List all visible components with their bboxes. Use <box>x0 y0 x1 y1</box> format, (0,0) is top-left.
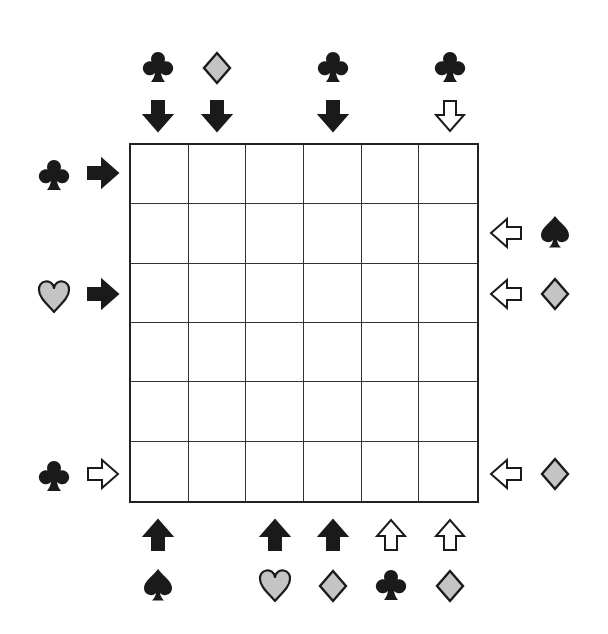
grid-cell-r3-c4[interactable] <box>304 264 362 323</box>
grid-cell-r5-c6[interactable] <box>419 382 477 441</box>
diamond-icon <box>535 454 575 494</box>
arrow-right-icon <box>83 274 123 314</box>
heart-icon <box>34 277 74 317</box>
grid-cell-r6-c6[interactable] <box>419 442 477 501</box>
puzzle-grid <box>129 143 479 503</box>
grid-cell-r2-c2[interactable] <box>189 204 247 263</box>
arrow-down-icon <box>430 96 470 136</box>
grid-cell-r5-c4[interactable] <box>304 382 362 441</box>
arrow-right-icon <box>83 153 123 193</box>
grid-cell-r3-c2[interactable] <box>189 264 247 323</box>
grid-cell-r6-c4[interactable] <box>304 442 362 501</box>
arrow-up-icon <box>313 515 353 555</box>
grid-cell-r6-c3[interactable] <box>246 442 304 501</box>
diamond-icon <box>197 48 237 88</box>
grid-cell-r5-c3[interactable] <box>246 382 304 441</box>
arrow-down-icon <box>197 96 237 136</box>
arrow-down-icon <box>138 96 178 136</box>
grid-cell-r4-c2[interactable] <box>189 323 247 382</box>
club-icon <box>313 48 353 88</box>
grid-cell-r1-c5[interactable] <box>362 145 420 204</box>
grid-cell-r4-c3[interactable] <box>246 323 304 382</box>
grid-cell-r3-c6[interactable] <box>419 264 477 323</box>
grid-cell-r2-c5[interactable] <box>362 204 420 263</box>
grid-cell-r1-c3[interactable] <box>246 145 304 204</box>
heart-icon <box>255 566 295 606</box>
grid-cell-r6-c2[interactable] <box>189 442 247 501</box>
spade-icon <box>138 566 178 606</box>
arrow-left-icon <box>486 454 526 494</box>
grid-cell-r6-c5[interactable] <box>362 442 420 501</box>
grid-cell-r1-c1[interactable] <box>131 145 189 204</box>
club-icon <box>371 566 411 606</box>
diamond-icon <box>313 566 353 606</box>
diamond-icon <box>430 566 470 606</box>
grid-cell-r3-c1[interactable] <box>131 264 189 323</box>
grid-cell-r5-c5[interactable] <box>362 382 420 441</box>
grid-cell-r4-c6[interactable] <box>419 323 477 382</box>
grid-cell-r1-c2[interactable] <box>189 145 247 204</box>
grid-cell-r5-c1[interactable] <box>131 382 189 441</box>
arrow-left-icon <box>486 213 526 253</box>
arrow-up-icon <box>138 515 178 555</box>
arrow-down-icon <box>313 96 353 136</box>
arrow-right-icon <box>83 454 123 494</box>
grid-cell-r6-c1[interactable] <box>131 442 189 501</box>
spade-icon <box>535 213 575 253</box>
arrow-left-icon <box>486 274 526 314</box>
club-icon <box>138 48 178 88</box>
arrow-up-icon <box>371 515 411 555</box>
arrow-up-icon <box>430 515 470 555</box>
grid-cell-r2-c4[interactable] <box>304 204 362 263</box>
club-icon <box>34 156 74 196</box>
club-icon <box>34 457 74 497</box>
grid-cell-r2-c1[interactable] <box>131 204 189 263</box>
grid-cell-r2-c6[interactable] <box>419 204 477 263</box>
diamond-icon <box>535 274 575 314</box>
club-icon <box>430 48 470 88</box>
grid-cell-r1-c4[interactable] <box>304 145 362 204</box>
grid-cell-r1-c6[interactable] <box>419 145 477 204</box>
grid-cell-r4-c4[interactable] <box>304 323 362 382</box>
arrow-up-icon <box>255 515 295 555</box>
grid-cell-r3-c5[interactable] <box>362 264 420 323</box>
grid-cell-r4-c1[interactable] <box>131 323 189 382</box>
grid-cell-r3-c3[interactable] <box>246 264 304 323</box>
grid-cell-r5-c2[interactable] <box>189 382 247 441</box>
grid-cell-r4-c5[interactable] <box>362 323 420 382</box>
grid-cell-r2-c3[interactable] <box>246 204 304 263</box>
